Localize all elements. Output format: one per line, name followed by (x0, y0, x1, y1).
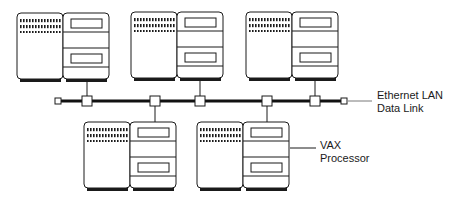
ethernet-lan-label: Ethernet LAN Data Link (377, 89, 443, 115)
transceiver-tap (82, 96, 92, 106)
vax-processor-label: VAX Processor (320, 139, 370, 165)
vax-processor-node-top-3 (246, 12, 338, 81)
vax-processor-node-bottom-1 (84, 122, 176, 191)
bus-terminator-right (341, 98, 347, 104)
ethernet-bus (55, 96, 372, 106)
vax-processor-node-bottom-2 (197, 122, 289, 191)
ethernet-lan-label-line1: Ethernet LAN (377, 89, 443, 102)
vax-processor-label-line2: Processor (320, 152, 370, 165)
transceiver-tap (310, 96, 320, 106)
bus-terminator-left (55, 98, 61, 104)
transceiver-tap (150, 96, 160, 106)
ethernet-lan-label-line2: Data Link (377, 102, 443, 115)
transceiver-tap (195, 96, 205, 106)
vax-processor-node-top-1 (17, 13, 109, 82)
vax-processor-node-top-2 (131, 12, 223, 81)
vax-processor-label-line1: VAX (320, 139, 370, 152)
transceiver-tap (262, 96, 272, 106)
